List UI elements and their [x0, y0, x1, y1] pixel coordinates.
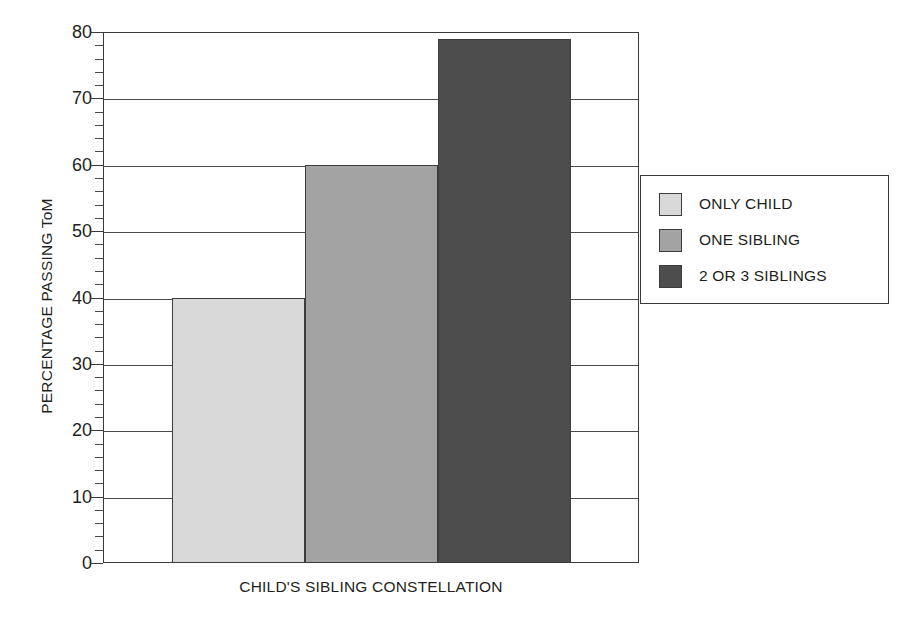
bar [438, 39, 571, 563]
y-axis-minor-tick [95, 523, 103, 524]
legend-item: ONLY CHILD [659, 186, 888, 222]
legend-label: 2 OR 3 SIBLINGS [699, 267, 827, 285]
y-axis-minor-tick [95, 417, 103, 418]
y-axis-tick-label: 10 [46, 488, 92, 506]
y-axis-tick-label: 60 [46, 156, 92, 174]
y-axis-major-tick [90, 32, 103, 33]
y-axis-major-tick [90, 298, 103, 299]
y-axis-tick-label: 40 [46, 289, 92, 307]
y-axis-major-tick [90, 231, 103, 232]
y-axis-minor-tick [95, 112, 103, 113]
y-axis-minor-tick [95, 536, 103, 537]
y-axis-minor-tick [95, 510, 103, 511]
y-axis-minor-tick [95, 390, 103, 391]
legend-item: ONE SIBLING [659, 222, 888, 258]
y-axis-minor-tick [95, 138, 103, 139]
bar [305, 165, 438, 563]
y-axis-minor-tick [95, 311, 103, 312]
y-axis-minor-tick [95, 351, 103, 352]
y-axis-tick-label: 50 [46, 222, 92, 240]
legend-box: ONLY CHILDONE SIBLING2 OR 3 SIBLINGS [640, 175, 889, 304]
y-axis-minor-tick [95, 218, 103, 219]
y-axis-minor-tick [95, 191, 103, 192]
y-axis-tick-label: 20 [46, 421, 92, 439]
y-axis-minor-tick [95, 444, 103, 445]
y-axis-minor-tick [95, 178, 103, 179]
legend-item: 2 OR 3 SIBLINGS [659, 258, 888, 294]
y-axis-minor-tick [95, 284, 103, 285]
y-axis-minor-tick [95, 483, 103, 484]
y-axis-tick-label: 30 [46, 355, 92, 373]
y-axis-major-tick [90, 430, 103, 431]
y-axis-major-tick [90, 563, 103, 564]
y-axis-tick-labels: 80706050403020100 [40, 0, 92, 619]
y-axis-minor-tick [95, 45, 103, 46]
y-axis-tick-label: 80 [46, 23, 92, 41]
bar-chart-figure: PERCENTAGE PASSING ToM 80706050403020100… [0, 0, 900, 619]
y-axis-tick-label: 0 [46, 554, 92, 572]
legend-swatch [659, 193, 682, 216]
y-axis-minor-tick [95, 470, 103, 471]
bar [172, 298, 305, 564]
y-axis-minor-tick [95, 85, 103, 86]
y-axis-minor-tick [95, 337, 103, 338]
y-axis-minor-tick [95, 59, 103, 60]
y-axis-minor-tick [95, 271, 103, 272]
y-axis-minor-tick [95, 72, 103, 73]
legend-label: ONLY CHILD [699, 195, 793, 213]
y-axis-minor-tick [95, 404, 103, 405]
y-axis-major-tick [90, 165, 103, 166]
y-axis-minor-tick [95, 151, 103, 152]
legend-swatch [659, 265, 682, 288]
legend-label: ONE SIBLING [699, 231, 800, 249]
legend-swatch [659, 229, 682, 252]
y-axis-minor-tick [95, 377, 103, 378]
y-axis-minor-tick [95, 244, 103, 245]
y-axis-major-tick [90, 364, 103, 365]
y-axis-minor-tick [95, 324, 103, 325]
bar-series-group [103, 32, 639, 563]
y-axis-minor-tick [95, 550, 103, 551]
y-axis-minor-tick [95, 457, 103, 458]
x-axis-title: CHILD'S SIBLING CONSTELLATION [103, 578, 639, 596]
y-axis-minor-tick [95, 205, 103, 206]
y-axis-minor-tick [95, 258, 103, 259]
y-axis-major-tick [90, 497, 103, 498]
y-axis-tick-label: 70 [46, 89, 92, 107]
y-axis-minor-tick [95, 125, 103, 126]
y-axis-tick-marks [90, 32, 103, 563]
y-axis-major-tick [90, 98, 103, 99]
